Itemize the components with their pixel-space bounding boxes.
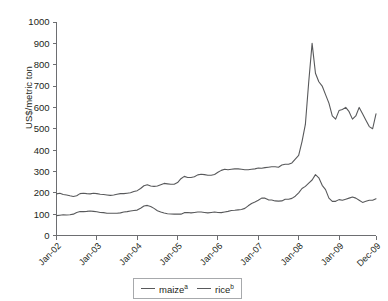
x-tick-label: Jan-04 <box>117 241 144 268</box>
legend-swatch-maize <box>141 288 155 289</box>
x-tick-label: Jan-05 <box>157 241 184 268</box>
y-tick-label: 100 <box>34 209 50 220</box>
x-tick-label: Jan-07 <box>238 241 265 268</box>
legend-item-rice[interactable]: riceb <box>197 281 234 295</box>
legend: maizea riceb <box>133 278 242 299</box>
legend-swatch-rice <box>197 288 211 289</box>
y-tick-label: 600 <box>34 102 50 113</box>
y-tick-label: 1000 <box>28 16 49 27</box>
series-lines <box>57 43 377 215</box>
legend-label-rice: riceb <box>215 281 234 295</box>
x-tick-label: Jan-02 <box>36 241 63 268</box>
x-tick-label: Dec-09 <box>355 241 383 269</box>
legend-item-maize[interactable]: maizea <box>141 281 188 295</box>
y-tick-label: 500 <box>34 123 50 134</box>
y-tick-label: 400 <box>34 145 50 156</box>
y-tick-label: 800 <box>34 59 50 70</box>
y-axis-ticks: 01002003004005006007008009001000 <box>28 16 56 241</box>
y-tick-label: 200 <box>34 187 50 198</box>
x-tick-label: Jan-03 <box>77 241 104 268</box>
price-chart: US$/metric ton 0100200300400500600700800… <box>0 0 388 301</box>
x-tick-label: Jan-08 <box>279 241 306 268</box>
y-tick-label: 300 <box>34 166 50 177</box>
x-tick-label: Jan-06 <box>198 241 225 268</box>
legend-label-maize: maizea <box>159 281 188 295</box>
y-tick-label: 900 <box>34 38 50 49</box>
y-tick-label: 700 <box>34 80 50 91</box>
series-line-rice <box>57 43 377 196</box>
y-tick-label: 0 <box>44 230 49 241</box>
x-tick-label: Jan-09 <box>319 241 346 268</box>
x-axis-ticks: Jan-02Jan-03Jan-04Jan-05Jan-06Jan-07Jan-… <box>36 236 382 269</box>
plot-area: 01002003004005006007008009001000 Jan-02J… <box>0 0 388 301</box>
